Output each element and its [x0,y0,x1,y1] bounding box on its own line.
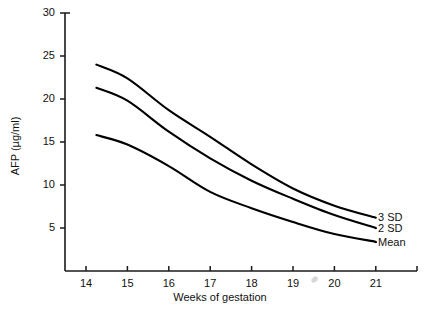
series-label-2sd: 2 SD [378,223,402,234]
x-axis-tick-label: 19 [281,278,305,289]
x-axis-tick-label: 18 [240,278,264,289]
y-axis-tick-label: 30 [29,7,55,18]
x-axis-tick-label: 16 [157,278,181,289]
y-axis-tick-label: 25 [29,50,55,61]
plot-area [0,0,429,315]
x-axis-title: Weeks of gestation [150,291,290,303]
series-curve-3-sd [96,65,375,218]
y-axis-tick-label: 15 [29,136,55,147]
y-axis-title: AFP (µg/ml) [9,101,21,191]
afp-gestation-chart: 51015202530 1415161718192021 AFP (µg/ml)… [0,0,429,315]
x-axis-tick-label: 21 [364,278,388,289]
y-axis-tick-label: 10 [29,179,55,190]
series-curve-2-sd [96,88,375,228]
y-axis-tick-label: 5 [29,222,55,233]
series-curves [96,65,375,242]
series-curve-mean [96,135,375,242]
y-axis-tick-label: 20 [29,93,55,104]
x-axis-tick-label: 20 [322,278,346,289]
series-label-mean: Mean [378,237,406,248]
x-axis-tick-label: 17 [198,278,222,289]
x-axis-tick-label: 15 [115,278,139,289]
x-axis-tick-label: 14 [74,278,98,289]
